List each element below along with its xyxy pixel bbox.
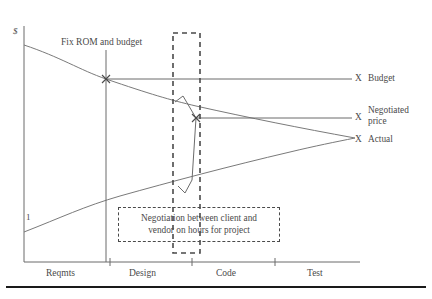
phase-label-reqmts: Reqmts [46, 268, 75, 278]
annotation-negotiation-box: Negotiation between client and vendor on… [118, 207, 280, 242]
legend-label-negotiated-price-line2: price [368, 116, 409, 127]
legend-label-negotiated-price-line1: Negotiated [368, 105, 409, 116]
legend-label-budget: Budget [368, 73, 395, 83]
legend-marker-negotiated-price: X [355, 112, 362, 122]
legend-label-actual: Actual [368, 134, 393, 144]
legend-label-negotiated-price: Negotiated price [368, 105, 409, 126]
bottom-horizontal-rule [6, 286, 426, 288]
phase-label-design: Design [129, 268, 156, 278]
annotation-line-2: vendor on hours for project [148, 225, 250, 236]
phase-label-test: Test [307, 268, 323, 278]
legend-marker-budget: X [355, 73, 362, 83]
callout-fix-rom-and-budget: Fix ROM and budget [61, 37, 142, 47]
annotation-line-1: Negotiation between client and [141, 213, 257, 224]
phase-label-code: Code [216, 268, 236, 278]
y-axis-title: $ [13, 26, 18, 36]
figure-cone-of-uncertainty: $ 1 Fix ROM and budget Negotiation betwe… [0, 0, 432, 299]
series-budget-estimate-curve [24, 45, 355, 138]
y-axis-origin-label: 1 [26, 212, 31, 222]
legend-marker-actual: X [355, 134, 362, 144]
